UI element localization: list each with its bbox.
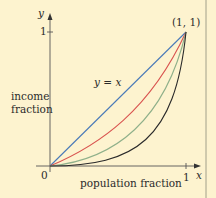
x-axis-arrow-icon — [194, 164, 201, 169]
chart-frame: y 1 (1, 1) y = x income fraction 0 1 x p… — [0, 0, 216, 198]
y-axis-label: y — [38, 8, 44, 19]
line-y-equals-x — [50, 32, 186, 166]
x-tick-label-1: 1 — [183, 172, 190, 183]
y-tick-label-1: 1 — [40, 26, 47, 37]
ylabel-line2: fraction — [11, 104, 53, 115]
line-label: y = x — [94, 77, 121, 88]
ylabel-line1: income — [11, 91, 50, 102]
origin-label: 0 — [41, 170, 48, 181]
x-axis-label: x — [196, 170, 202, 181]
point-label: (1, 1) — [172, 17, 200, 28]
y-axis-arrow-icon — [48, 13, 53, 20]
xlabel: population fraction — [80, 178, 182, 189]
